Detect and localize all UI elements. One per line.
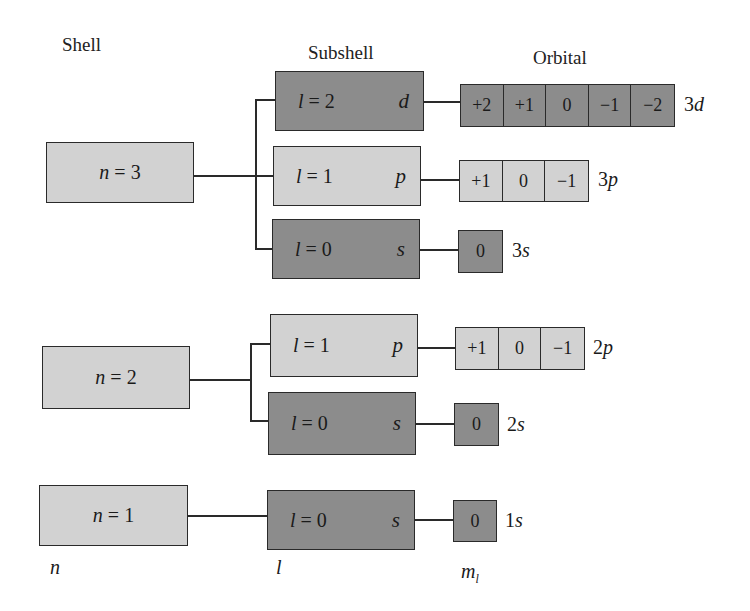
orbital-label-num: 2 [593, 336, 603, 358]
connector-line [415, 519, 453, 521]
axis-label-l: l [276, 556, 282, 579]
orbital-cell: 0 [499, 328, 542, 369]
orbital-label-3d: 3d [684, 93, 704, 116]
orbital-cell: −2 [631, 85, 674, 126]
orbital-cell: 0 [503, 161, 546, 201]
connector-line [250, 420, 268, 422]
orbital-row-3s: 0 [458, 230, 503, 273]
orbital-cell: +1 [456, 328, 499, 369]
connector-line [190, 379, 251, 381]
orbital-cell: 0 [455, 404, 498, 445]
orbital-label-letter: s [515, 509, 523, 531]
subshell-eq: = [302, 165, 323, 187]
orbital-label-num: 3 [512, 239, 522, 261]
connector-line [255, 99, 275, 101]
orbital-label-letter: s [522, 239, 530, 261]
orbital-column-header: Orbital [533, 47, 587, 69]
connector-line [194, 175, 275, 177]
orbital-label-num: 3 [684, 93, 694, 115]
subshell-box-1s: l = 0 s [267, 490, 415, 550]
orbital-row-2s: 0 [454, 403, 499, 446]
subshell-eq: = [301, 238, 322, 260]
shell-value: 2 [127, 366, 137, 388]
orbital-label-1s: 1s [505, 509, 523, 532]
shell-box-n1: n = 1 [39, 485, 188, 546]
orbital-label-num: 3 [598, 168, 608, 190]
orbital-cell: +2 [461, 85, 504, 126]
connector-line [188, 515, 268, 517]
orbital-row-2p: +1 0 −1 [455, 327, 585, 370]
subshell-box-3p: l = 1 p [273, 146, 421, 206]
subshell-letter: p [396, 164, 407, 189]
orbital-label-3s: 3s [512, 239, 530, 262]
subshell-letter: p [393, 333, 404, 358]
subshell-letter: s [393, 411, 401, 436]
shell-box-n2: n = 2 [42, 346, 190, 409]
orbital-label-num: 1 [505, 509, 515, 531]
subshell-box-2s: l = 0 s [268, 392, 416, 455]
orbital-row-3d: +2 +1 0 −1 −2 [460, 84, 675, 127]
shell-var: n [99, 161, 109, 183]
orbital-cell: +1 [460, 161, 503, 201]
subshell-column-header: Subshell [308, 42, 373, 64]
orbital-cell: −1 [589, 85, 632, 126]
subshell-box-3d: l = 2 d [275, 71, 424, 131]
axis-label-n: n [50, 556, 60, 579]
subshell-value: 1 [320, 334, 330, 356]
shell-eq: = [103, 504, 124, 526]
axis-label-ml-main: m [461, 560, 475, 582]
axis-label-ml-sub: l [475, 572, 478, 586]
connector-line [250, 343, 252, 421]
orbital-label-letter: p [608, 168, 618, 190]
subshell-value: 0 [317, 509, 327, 531]
shell-box-n3: n = 3 [46, 142, 194, 203]
orbital-cell: 0 [454, 501, 496, 541]
connector-line [420, 249, 458, 251]
subshell-letter: d [399, 89, 410, 114]
orbital-cell: 0 [459, 231, 502, 272]
connector-line [418, 347, 455, 349]
orbital-label-2p: 2p [593, 336, 613, 359]
shell-value: 3 [131, 161, 141, 183]
subshell-eq: = [297, 412, 318, 434]
subshell-letter: s [392, 508, 400, 533]
shell-eq: = [109, 161, 130, 183]
axis-label-ml: ml [461, 560, 479, 587]
connector-line [424, 101, 460, 103]
shell-column-header: Shell [62, 34, 101, 56]
subshell-box-2p: l = 1 p [270, 314, 418, 377]
orbital-row-3p: +1 0 −1 [459, 160, 589, 202]
orbital-label-letter: d [694, 93, 704, 115]
subshell-box-3s: l = 0 s [272, 219, 420, 279]
subshell-eq: = [304, 90, 325, 112]
orbital-cell: −1 [545, 161, 588, 201]
orbital-label-letter: p [603, 336, 613, 358]
shell-var: n [95, 366, 105, 388]
orbital-row-1s: 0 [453, 500, 497, 542]
connector-line [416, 423, 454, 425]
subshell-letter: s [397, 237, 405, 262]
orbital-cell: 0 [546, 85, 589, 126]
orbital-label-2s: 2s [507, 413, 525, 436]
orbital-label-3p: 3p [598, 168, 618, 191]
orbital-cell: −1 [541, 328, 584, 369]
subshell-value: 0 [322, 238, 332, 260]
shell-var: n [93, 504, 103, 526]
subshell-eq: = [296, 509, 317, 531]
orbital-label-num: 2 [507, 413, 517, 435]
connector-line [255, 99, 257, 249]
connector-line [250, 343, 270, 345]
shell-eq: = [105, 366, 126, 388]
subshell-value: 1 [323, 165, 333, 187]
subshell-value: 0 [318, 412, 328, 434]
orbital-label-letter: s [517, 413, 525, 435]
subshell-eq: = [299, 334, 320, 356]
subshell-value: 2 [325, 90, 335, 112]
orbital-cell: +1 [504, 85, 547, 126]
shell-value: 1 [124, 504, 134, 526]
connector-line [421, 179, 459, 181]
